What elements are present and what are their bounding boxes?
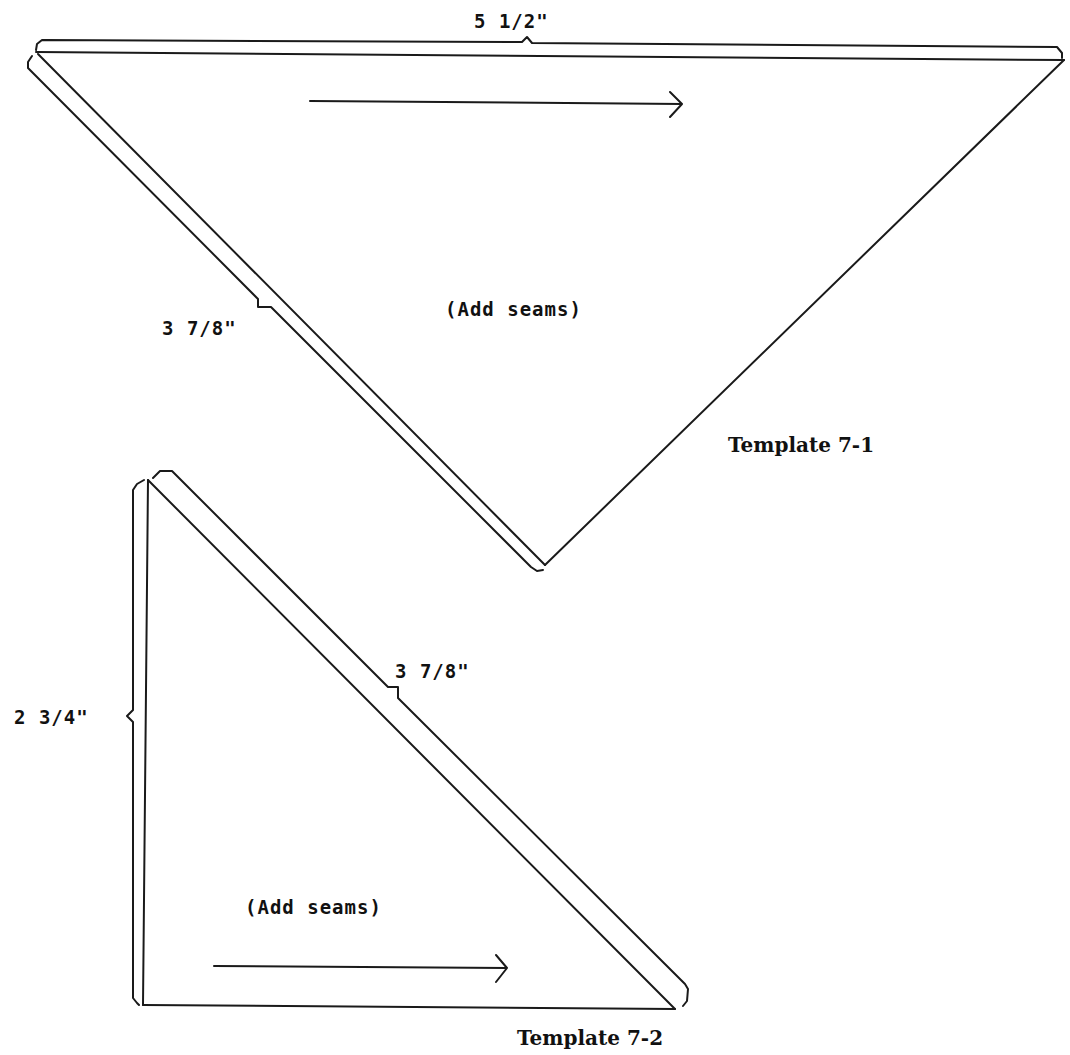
- template-7-2-hypotenuse-dimension: 3 7/8": [395, 660, 470, 682]
- template-7-2-grain-arrow: [214, 955, 507, 982]
- template-7-2-left-dimension: 2 3/4": [14, 706, 89, 728]
- template-7-1-top-dimension: 5 1/2": [474, 10, 549, 32]
- template-7-2-left-seam-line: [127, 480, 144, 1005]
- template-7-1-title: Template 7-1: [728, 433, 874, 457]
- template-7-2-title: Template 7-2: [517, 1026, 663, 1050]
- template-7-2-hypotenuse-seam-line: [153, 471, 688, 1006]
- template-7-1-top-seam-line: [36, 37, 1062, 58]
- template-7-1-left-dimension: 3 7/8": [162, 317, 237, 339]
- template-7-1-seam-note: (Add seams): [445, 298, 582, 320]
- template-7-1-right-edge: [545, 60, 1064, 565]
- template-7-1-top-edge: [36, 52, 1064, 60]
- template-7-1-grain-arrow: [310, 92, 682, 117]
- template-7-2-seam-note: (Add seams): [245, 896, 382, 918]
- templates-diagram: [0, 0, 1070, 1055]
- template-7-2-hypotenuse: [148, 480, 675, 1009]
- template-7-2-shape: [127, 471, 688, 1009]
- template-7-2-left-edge: [143, 480, 148, 1005]
- template-7-2-bottom-edge: [143, 1005, 675, 1009]
